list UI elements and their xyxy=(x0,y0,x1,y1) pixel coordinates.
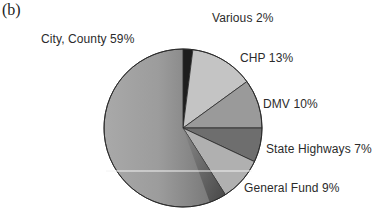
label-general-fund: General Fund 9% xyxy=(244,181,340,195)
label-city-county: City, County 59% xyxy=(41,32,134,46)
label-various: Various 2% xyxy=(212,11,273,25)
pie-slices xyxy=(104,49,262,207)
label-chp: CHP 13% xyxy=(240,51,293,65)
label-state-highways: State Highways 7% xyxy=(266,142,372,156)
label-dmv: DMV 10% xyxy=(263,97,318,111)
